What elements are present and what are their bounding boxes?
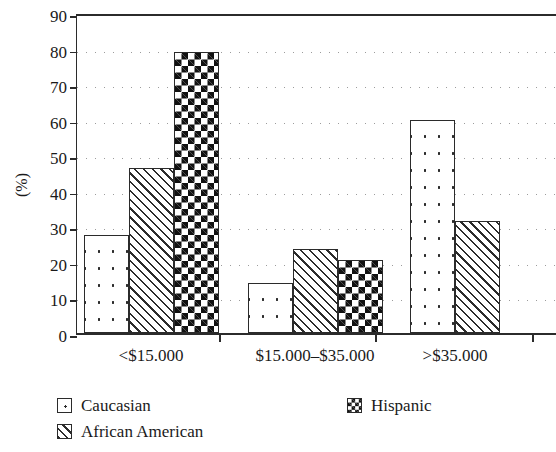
y-axis-tick-label: 30: [25, 221, 67, 238]
bar-caucasian-group-2: [248, 283, 293, 333]
legend-item-african-american: African American: [57, 423, 347, 440]
gridline: [77, 123, 556, 124]
y-axis-tick: [70, 336, 77, 338]
x-axis-tick-label: <$15.000: [119, 346, 184, 366]
chart-legend: Caucasian Hispanic African American: [57, 392, 527, 444]
y-axis-tick: [70, 87, 77, 89]
y-axis-tick: [70, 300, 77, 302]
x-axis-tick: [532, 334, 534, 342]
bar-african-american-group-2: [293, 249, 338, 333]
dotted-swatch-icon: [57, 398, 72, 413]
bar-caucasian-group-3: [410, 120, 455, 333]
y-axis-tick: [70, 52, 77, 54]
x-axis-tick-label: $15.000–$35.000: [256, 346, 375, 366]
legend-label: African American: [81, 423, 203, 440]
legend-label: Caucasian: [81, 397, 151, 414]
bar-hispanic-group-1: [174, 52, 219, 333]
y-axis-tick-label: 40: [25, 186, 67, 203]
x-axis-tick-label: >$35.000: [423, 346, 488, 366]
y-axis-tick-label: 20: [25, 257, 67, 274]
y-axis-tick: [70, 265, 77, 267]
hatched-swatch-icon: [57, 424, 72, 439]
y-axis-tick-label: 10: [25, 292, 67, 309]
y-axis-tick: [70, 229, 77, 231]
y-axis-tick-label: 90: [25, 8, 67, 25]
bar-african-american-group-3: [455, 221, 500, 333]
y-axis-tick-label: 0: [25, 328, 67, 345]
y-axis-tick: [70, 123, 77, 125]
gridline: [77, 87, 556, 88]
gridline: [77, 158, 556, 159]
checkered-swatch-icon: [347, 398, 362, 413]
y-axis-tick: [70, 194, 77, 196]
legend-label: Hispanic: [371, 397, 431, 414]
y-axis-tick-label: 50: [25, 150, 67, 167]
y-axis-tick-label: 80: [25, 44, 67, 61]
bar-chart-figure: (%) 0102030405060708090 Caucasian Hispan…: [0, 0, 556, 452]
x-axis-tick: [219, 334, 221, 342]
y-axis-tick-label: 60: [25, 115, 67, 132]
legend-item-caucasian: Caucasian: [57, 397, 347, 414]
x-axis-tick: [375, 334, 377, 342]
legend-row: African American: [57, 418, 527, 444]
y-axis-tick: [70, 16, 77, 18]
legend-row: Caucasian Hispanic: [57, 392, 527, 418]
y-axis-tick-label: 70: [25, 79, 67, 96]
gridline: [77, 52, 556, 53]
legend-item-hispanic: Hispanic: [347, 397, 431, 414]
y-axis-tick: [70, 158, 77, 160]
bar-caucasian-group-1: [84, 235, 129, 333]
bar-african-american-group-1: [129, 168, 174, 333]
bar-hispanic-group-2: [338, 260, 383, 333]
